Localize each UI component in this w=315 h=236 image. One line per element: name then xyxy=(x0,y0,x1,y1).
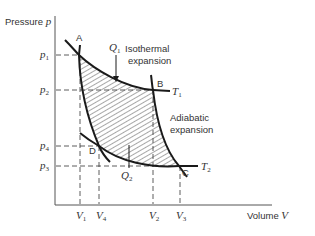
tick-v2: V2 xyxy=(149,210,159,223)
y-axis-label: Pressure p xyxy=(5,16,51,27)
annotation-adiabatic: Adiabatic expansion xyxy=(170,113,213,134)
label-t1: T1 xyxy=(172,86,182,99)
point-b: B xyxy=(157,79,163,89)
point-d: D xyxy=(89,146,96,156)
tick-p4: p4 xyxy=(40,140,49,153)
label-q1: Q1 xyxy=(109,42,120,55)
label-t2: T2 xyxy=(201,161,211,174)
annotation-isothermal: Isothermal expansion xyxy=(125,44,171,65)
carnot-cycle-diagram xyxy=(0,0,315,236)
point-a: A xyxy=(76,33,82,43)
tick-v3: V3 xyxy=(176,210,186,223)
tick-p2: p2 xyxy=(40,84,49,97)
tick-v1: V1 xyxy=(76,210,86,223)
point-c: C xyxy=(182,168,189,178)
tick-p3: p3 xyxy=(40,160,49,173)
x-axis-label: Volume V xyxy=(247,210,288,221)
tick-v4: V4 xyxy=(96,210,106,223)
label-q2: Q2 xyxy=(121,170,132,183)
tick-p1: p1 xyxy=(40,49,49,62)
